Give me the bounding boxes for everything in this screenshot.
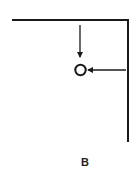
figure-panel: B <box>0 0 139 179</box>
target-circle-icon <box>75 65 85 75</box>
panel-label: B <box>78 156 92 168</box>
diagram-canvas <box>0 0 139 179</box>
